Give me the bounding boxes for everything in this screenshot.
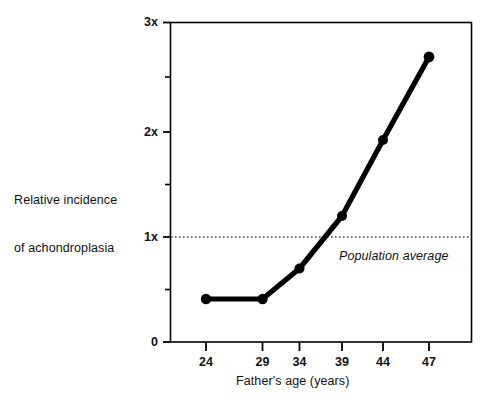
- data-point-39: [337, 211, 347, 221]
- y-axis-major-ticks: [163, 23, 171, 343]
- x-axis-ticks: [206, 342, 429, 351]
- x-axis-label-29: 29: [248, 355, 278, 369]
- y-axis-label-2x: 2x: [128, 125, 158, 139]
- y-axis-label-3x: 3x: [128, 15, 158, 29]
- x-axis-label-44: 44: [368, 355, 398, 369]
- data-point-47: [424, 52, 435, 63]
- data-point-44: [378, 135, 388, 145]
- x-axis-label-39: 39: [327, 355, 357, 369]
- y-axis-minor-ticks: [165, 77, 171, 290]
- plot-frame: [171, 23, 472, 343]
- data-point-34: [295, 264, 305, 274]
- y-axis-title-line-2: of achondroplasia: [14, 240, 156, 256]
- data-point-29: [257, 294, 267, 304]
- y-axis-title-line-1: Relative incidence: [14, 192, 156, 208]
- chart-figure: 3x 2x 1x 0 24 29 34 39 44 47 Relative in…: [0, 0, 495, 414]
- y-axis-label-0: 0: [128, 335, 158, 349]
- data-point-24: [201, 294, 211, 304]
- x-axis-label-34: 34: [285, 355, 315, 369]
- x-axis-label-47: 47: [414, 355, 444, 369]
- x-axis-title: Father's age (years): [236, 374, 349, 388]
- y-axis-title: Relative incidence of achondroplasia: [14, 160, 156, 288]
- population-average-annotation: Population average: [339, 249, 449, 263]
- x-axis-label-24: 24: [191, 355, 221, 369]
